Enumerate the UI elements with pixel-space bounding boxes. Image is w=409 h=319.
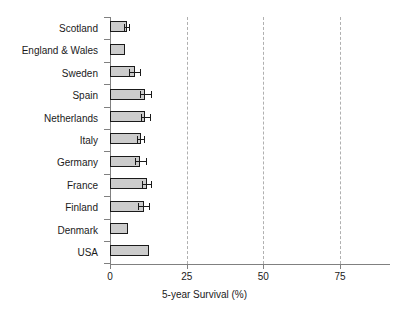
y-tick	[104, 196, 110, 197]
error-bar-italy	[137, 139, 144, 140]
error-cap	[151, 91, 152, 98]
error-bar-germany	[135, 161, 146, 162]
error-cap	[151, 181, 152, 188]
category-label-sweden: Sweden	[0, 68, 98, 79]
y-tick	[104, 129, 110, 130]
x-tick-0	[110, 264, 111, 269]
category-label-italy: Italy	[0, 135, 98, 146]
category-label-spain: Spain	[0, 90, 98, 101]
bar-denmark	[110, 223, 128, 234]
error-cap	[146, 158, 147, 165]
category-label-scotland: Scotland	[0, 23, 98, 34]
gridline-75	[340, 17, 341, 264]
error-cap	[144, 136, 145, 143]
error-cap	[137, 136, 138, 143]
y-tick	[104, 174, 110, 175]
category-label-denmark: Denmark	[0, 225, 98, 236]
error-cap	[129, 69, 130, 76]
category-label-netherlands: Netherlands	[0, 113, 98, 124]
gridline-50	[263, 17, 264, 264]
survival-bar-chart: 0 25 50 75 5-year Survival (%) Scotland …	[0, 0, 409, 319]
y-tick	[104, 219, 110, 220]
category-label-germany: Germany	[0, 157, 98, 168]
bar-usa	[110, 245, 149, 256]
y-tick	[104, 84, 110, 85]
error-bar-netherlands	[141, 117, 150, 118]
error-bar-france	[142, 184, 151, 185]
error-bar-spain	[140, 94, 151, 95]
x-tick-label-0: 0	[95, 271, 125, 283]
x-tick-label-25: 25	[172, 271, 202, 283]
error-cap	[129, 24, 130, 31]
y-tick	[104, 17, 110, 18]
error-cap	[142, 181, 143, 188]
category-label-finland: Finland	[0, 202, 98, 213]
y-tick	[104, 241, 110, 242]
category-label-usa: USA	[0, 247, 98, 258]
x-axis-title: 5-year Survival (%)	[0, 289, 409, 300]
category-label-england-wales: England & Wales	[0, 45, 98, 56]
error-cap	[141, 114, 142, 121]
x-tick-75	[340, 264, 341, 269]
y-tick	[104, 151, 110, 152]
y-tick	[104, 62, 110, 63]
error-cap	[149, 203, 150, 210]
y-tick	[104, 39, 110, 40]
error-bar-sweden	[129, 72, 140, 73]
category-label-france: France	[0, 180, 98, 191]
error-cap	[140, 69, 141, 76]
error-cap	[140, 91, 141, 98]
x-tick-label-75: 75	[325, 271, 355, 283]
bar-england-wales	[110, 44, 125, 55]
error-bar-finland	[138, 206, 149, 207]
x-tick-50	[263, 264, 264, 269]
y-tick	[104, 107, 110, 108]
gridline-25	[187, 17, 188, 264]
error-cap	[138, 203, 139, 210]
x-tick-label-50: 50	[248, 271, 278, 283]
x-tick-25	[187, 264, 188, 269]
x-axis-line	[110, 264, 390, 265]
error-cap	[124, 24, 125, 31]
error-cap	[135, 158, 136, 165]
error-cap	[150, 114, 151, 121]
